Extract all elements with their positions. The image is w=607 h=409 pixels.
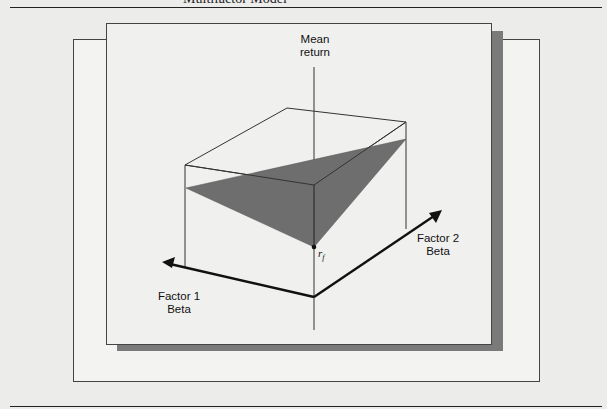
mean-return-label-line1: Mean (293, 33, 337, 46)
factor1-label-line2: Beta (147, 303, 211, 316)
risk-free-label: rf (318, 247, 325, 262)
factor2-label-line2: Beta (406, 245, 470, 258)
multifactor-diagram (0, 0, 607, 409)
mean-return-label: Mean return (293, 33, 337, 59)
bottom-rule (10, 406, 602, 407)
factor2-arrowhead-icon (429, 210, 442, 223)
factor1-label-line1: Factor 1 (147, 290, 211, 303)
factor2-beta-label: Factor 2 Beta (406, 232, 470, 258)
factor1-beta-label: Factor 1 Beta (147, 290, 211, 316)
factor1-arrowhead-icon (162, 257, 175, 268)
rf-subscript: f (322, 253, 324, 262)
mean-return-label-line2: return (293, 46, 337, 59)
risk-free-point (312, 245, 317, 250)
factor2-label-line1: Factor 2 (406, 232, 470, 245)
shaded-plane (186, 139, 406, 247)
